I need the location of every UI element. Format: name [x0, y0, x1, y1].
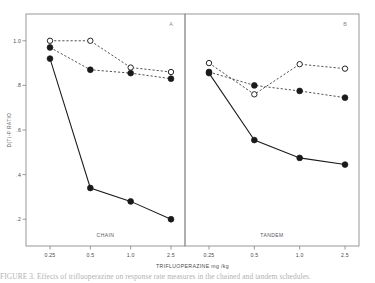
series-line-filled-circle-solid	[50, 59, 171, 220]
y-axis-tick-label: .6	[16, 127, 21, 133]
data-point-open-circle	[297, 61, 302, 66]
figure-root: 1.0.8.6.4.2D(T)-P RATIO0.250.51.02.5ACHA…	[0, 0, 375, 283]
data-point-filled-circle	[297, 155, 303, 161]
two-panel-line-chart: 1.0.8.6.4.2D(T)-P RATIO0.250.51.02.5ACHA…	[0, 0, 375, 283]
x-axis-tick-label: 2.5	[341, 252, 349, 258]
data-point-open-circle	[252, 92, 257, 97]
data-point-open-circle	[47, 38, 52, 43]
data-point-filled-circle	[342, 95, 348, 101]
y-axis-title: D(T)-P RATIO	[7, 113, 12, 148]
x-axis-tick-label: 1.0	[296, 252, 304, 258]
x-axis-tick-label: 0.25	[45, 252, 56, 258]
y-axis-tick-label: 1.0	[13, 38, 21, 44]
series-line-open-circle-dashed	[209, 63, 345, 94]
data-point-filled-circle	[297, 88, 303, 94]
data-point-filled-circle	[168, 216, 174, 222]
panel-name-tandem: TANDEM	[260, 232, 283, 238]
data-point-filled-circle	[87, 67, 93, 73]
data-point-filled-circle	[128, 70, 134, 76]
data-point-open-circle	[88, 38, 93, 43]
panel-b-frame	[185, 14, 359, 246]
data-point-filled-circle	[251, 137, 257, 143]
data-point-filled-circle	[128, 198, 134, 204]
series-line-filled-circle-solid	[209, 73, 345, 164]
series-line-filled-circle-dashed	[209, 72, 345, 98]
data-point-filled-circle	[206, 70, 212, 76]
x-axis-tick-label: 0.5	[86, 252, 94, 258]
x-axis-tick-label: 2.5	[167, 252, 175, 258]
x-axis-tick-label: 0.5	[250, 252, 258, 258]
x-axis-tick-label: 1.0	[127, 252, 135, 258]
data-point-filled-circle	[47, 56, 53, 62]
data-point-filled-circle	[251, 82, 257, 88]
data-point-filled-circle	[87, 185, 93, 191]
panel-name-chain: CHAIN	[97, 232, 115, 238]
data-point-filled-circle	[168, 76, 174, 82]
x-axis-tick-label: 0.25	[204, 252, 215, 258]
panel-tag-b: B	[343, 21, 347, 27]
data-point-open-circle	[342, 66, 347, 71]
y-axis-tick-label: .4	[16, 172, 21, 178]
data-point-open-circle	[168, 69, 173, 74]
panel-tag-a: A	[169, 21, 173, 27]
data-point-open-circle	[206, 60, 211, 65]
figure-caption: FIGURE 3. Effects of trifluoperazine on …	[0, 272, 375, 283]
x-axis-title: TRIFLUOPERAZINE mg /kg	[156, 263, 229, 269]
y-axis-tick-label: .2	[16, 216, 21, 222]
data-point-filled-circle	[47, 45, 53, 51]
data-point-filled-circle	[342, 162, 348, 168]
data-point-open-circle	[128, 65, 133, 70]
series-line-filled-circle-dashed	[50, 47, 171, 78]
y-axis-tick-label: .8	[16, 82, 21, 88]
series-line-open-circle-dashed	[50, 41, 171, 72]
